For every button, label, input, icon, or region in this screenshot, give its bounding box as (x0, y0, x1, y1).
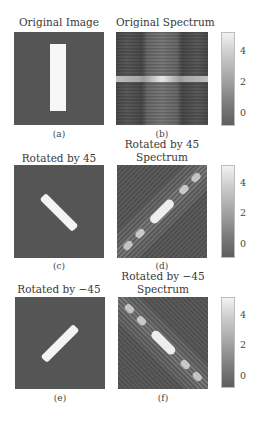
panel-f-label: (f) (118, 393, 208, 403)
figure: Original Image (a) Original Spectrum (0, 0, 259, 421)
colorbar-1-tick-0: 0 (240, 108, 246, 118)
panel-d-title-line1: Rotated by 45 (116, 138, 208, 150)
colorbar-2 (221, 165, 235, 258)
panel-d-title-line2: Spectrum (116, 151, 208, 163)
colorbar-3-tick-2: 2 (240, 340, 246, 350)
panel-a-original-image (14, 32, 104, 125)
colorbar-2-tick-4: 4 (240, 178, 246, 188)
panel-e-rotated-minus-45-image (15, 297, 105, 389)
panel-c-rotated-45-image (14, 165, 104, 258)
panel-a-label: (a) (14, 129, 104, 139)
colorbar-1-tick-2: 2 (240, 77, 246, 87)
colorbar-2-tick-2: 2 (240, 208, 246, 218)
panel-c-label: (c) (14, 261, 104, 271)
panel-b-title: Original Spectrum (116, 16, 208, 28)
colorbar-1-tick-4: 4 (240, 46, 246, 56)
colorbar-3 (221, 297, 235, 388)
panel-f-rotated-minus-45-spectrum (118, 297, 208, 389)
colorbar-2-tick-0: 0 (240, 239, 246, 249)
panel-a-title: Original Image (14, 16, 104, 28)
panel-f-title-line1: Rotated by −45 (117, 270, 209, 282)
colorbar-3-tick-4: 4 (240, 310, 246, 320)
panel-e-label: (e) (15, 393, 105, 403)
panel-b-original-spectrum (116, 32, 208, 125)
panel-f-title-line2: Spectrum (117, 283, 209, 295)
colorbar-3-tick-0: 0 (240, 371, 246, 381)
colorbar-1 (221, 32, 235, 126)
panel-d-rotated-45-spectrum (117, 165, 207, 258)
panel-e-title: Rotated by −45 (14, 283, 104, 295)
panel-c-title: Rotated by 45 (14, 152, 104, 164)
